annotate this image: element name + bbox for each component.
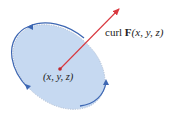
point-label: (x, y, z) bbox=[43, 71, 73, 82]
disk bbox=[0, 7, 121, 121]
curl-diagram: curl F(x, y, z) (x, y, z) bbox=[0, 0, 176, 121]
diagram-canvas bbox=[0, 0, 176, 121]
field-symbol: F bbox=[125, 26, 132, 38]
curl-vector-label: curl F(x, y, z) bbox=[105, 26, 163, 38]
curl-args: (x, y, z) bbox=[132, 26, 164, 38]
curl-text: curl bbox=[105, 26, 125, 38]
